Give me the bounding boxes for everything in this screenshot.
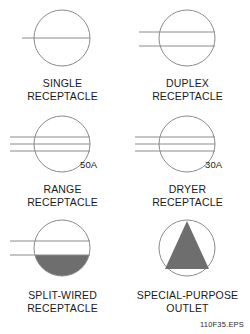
range-amperage-label: 50A [80,160,97,170]
range-receptacle-symbol: 50A [0,114,125,182]
symbol-caption: DUPLEX RECEPTACLE [152,77,223,102]
symbol-cell-range-receptacle: 50A RANGE RECEPTACLE [0,114,125,218]
symbol-caption: SINGLE RECEPTACLE [27,77,98,102]
electrical-symbol-figure: SINGLE RECEPTACLE DUPLEX RECEPTACLE [0,0,250,334]
single-receptacle-symbol [0,8,125,76]
symbol-cell-dryer-receptacle: 30A DRYER RECEPTACLE [125,114,250,218]
symbol-caption: RANGE RECEPTACLE [27,183,98,208]
special-purpose-outlet-symbol [125,218,250,286]
symbol-grid: SINGLE RECEPTACLE DUPLEX RECEPTACLE [0,8,250,326]
symbol-caption: SPLIT-WIRED RECEPTACLE [27,289,98,314]
dryer-receptacle-symbol: 30A [125,114,250,182]
symbol-cell-split-wired-receptacle: SPLIT-WIRED RECEPTACLE [0,218,125,326]
dryer-amperage-label: 30A [205,160,222,170]
split-wired-receptacle-symbol [0,218,125,286]
symbol-caption: DRYER RECEPTACLE [152,183,223,208]
duplex-receptacle-symbol [125,8,250,76]
figure-id-label: 110F35.EPS [200,320,244,329]
symbol-cell-special-purpose-outlet: SPECIAL-PURPOSE OUTLET [125,218,250,326]
symbol-cell-duplex-receptacle: DUPLEX RECEPTACLE [125,8,250,114]
symbol-cell-single-receptacle: SINGLE RECEPTACLE [0,8,125,114]
symbol-caption: SPECIAL-PURPOSE OUTLET [137,289,238,314]
